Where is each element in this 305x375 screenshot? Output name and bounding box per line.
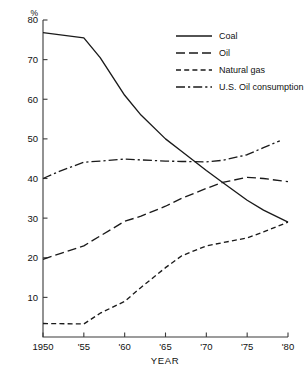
y-tick-label: 20 [27, 252, 38, 263]
line-chart-canvas: 1020304050607080 1950'55'60'65'70'75'80 … [0, 0, 305, 375]
series-line-coal [43, 33, 288, 222]
series-line-u-s-oil-consumption [43, 141, 280, 179]
y-tick-label: 30 [27, 213, 38, 224]
x-tick-label: '80 [282, 341, 294, 352]
x-tick-label: '65 [159, 341, 171, 352]
legend-label: Coal [219, 31, 238, 41]
x-axis-title: YEAR [151, 355, 179, 366]
y-axis-tick-labels: 1020304050607080 [27, 14, 38, 302]
data-series-group [43, 33, 288, 324]
y-tick-label: 60 [27, 94, 38, 105]
series-line-natural-gas [43, 222, 288, 324]
x-tick-label: '60 [118, 341, 130, 352]
legend-label: Natural gas [219, 65, 266, 75]
y-tick-label: 50 [27, 133, 38, 144]
x-tick-label: '55 [78, 341, 90, 352]
y-axis-unit-label: % [30, 8, 38, 18]
x-axis-tick-labels: 1950'55'60'65'70'75'80 [32, 341, 294, 352]
y-tick-label: 10 [27, 292, 38, 303]
legend-label: Oil [219, 48, 230, 58]
x-tick-label: '75 [241, 341, 253, 352]
chart-legend: CoalOilNatural gasU.S. Oil consumption [176, 31, 304, 92]
x-tick-label: '70 [200, 341, 212, 352]
x-axis-tick-marks [43, 333, 288, 338]
series-line-oil [43, 177, 288, 259]
x-tick-label: 1950 [32, 341, 53, 352]
legend-label: U.S. Oil consumption [219, 82, 304, 92]
y-tick-label: 40 [27, 173, 38, 184]
chart-figure: 1020304050607080 1950'55'60'65'70'75'80 … [0, 0, 305, 375]
y-tick-label: 70 [27, 54, 38, 65]
y-axis-tick-marks [43, 20, 48, 297]
